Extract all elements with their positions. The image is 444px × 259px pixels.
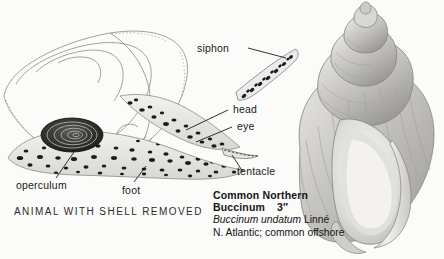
species-common-name-line2-row: Buccinum3″ [213,201,393,213]
species-authority: Linné [304,214,329,225]
illustration-plate: siphon head eye tentacle operculum foot … [0,0,444,259]
callout-label-siphon: siphon [197,43,229,54]
tentacle-structure [222,148,258,159]
species-scientific-row: Buccinum undatum Linné [213,214,393,227]
siphon-structure [236,49,298,100]
operculum-structure [41,118,103,152]
species-caption-block: Common Northern Buccinum3″ Buccinum unda… [213,189,393,240]
leader-siphon [248,48,286,58]
callout-label-tentacle: tentacle [237,166,275,177]
callout-label-foot: foot [122,185,140,196]
species-common-name-line1: Common Northern [213,189,393,201]
species-range: N. Atlantic; common offshore [213,227,393,240]
callout-label-head: head [233,104,257,115]
callout-label-operculum: operculum [16,180,67,191]
species-size: 3″ [277,201,288,213]
species-common-name-line2: Buccinum [213,201,265,213]
callout-label-eye: eye [237,121,255,132]
panel-caption-animal: ANIMAL WITH SHELL REMOVED [14,206,203,217]
species-scientific-name: Buccinum undatum [213,214,301,225]
